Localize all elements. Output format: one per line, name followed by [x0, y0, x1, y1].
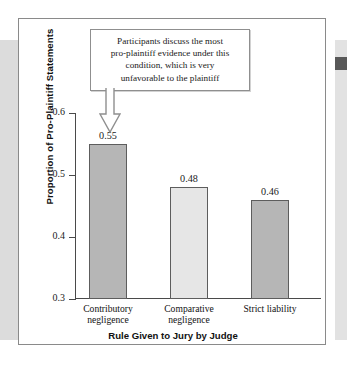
x-category-label-3-line1: Strict liability	[225, 303, 315, 314]
bar-chart: Proportion of Pro-Plaintiff Statements 0…	[19, 19, 327, 346]
annotation-line-1: Participants discuss the most	[97, 35, 243, 47]
figure-page: Proportion of Pro-Plaintiff Statements 0…	[0, 0, 347, 366]
x-category-label-1: Contributory negligence	[63, 303, 153, 326]
x-category-label-2-line2: negligence	[144, 314, 234, 325]
annotation-line-3: condition, which is very	[97, 59, 243, 71]
figure-frame: Proportion of Pro-Plaintiff Statements 0…	[18, 18, 326, 345]
bar-value-label-3: 0.46	[250, 186, 290, 197]
annotation-callout-box: Participants discuss the most pro-plaint…	[90, 29, 250, 91]
down-arrow-icon	[90, 88, 130, 138]
x-category-label-1-line2: negligence	[63, 314, 153, 325]
page-edge-band-right	[335, 40, 347, 340]
bar-strict-liability[interactable]	[251, 200, 289, 299]
y-tick-0.3	[69, 299, 76, 300]
x-category-label-2-line1: Comparative	[144, 303, 234, 314]
page-edge-tab-mark	[335, 57, 347, 70]
x-category-label-2: Comparative negligence	[144, 303, 234, 326]
x-category-label-1-line1: Contributory	[63, 303, 153, 314]
x-category-label-3: Strict liability	[225, 303, 315, 314]
bar-contributory-negligence[interactable]	[89, 144, 127, 299]
bar-value-label-2: 0.48	[169, 173, 209, 184]
bar-comparative-negligence[interactable]	[170, 187, 208, 299]
bars-layer	[19, 113, 327, 299]
page-edge-band-bottom	[0, 352, 347, 366]
x-axis-title: Rule Given to Jury by Judge	[19, 330, 327, 341]
annotation-line-2: pro-plaintiff evidence under this	[97, 47, 243, 59]
annotation-line-4: unfavorable to the plaintiff	[97, 72, 243, 84]
